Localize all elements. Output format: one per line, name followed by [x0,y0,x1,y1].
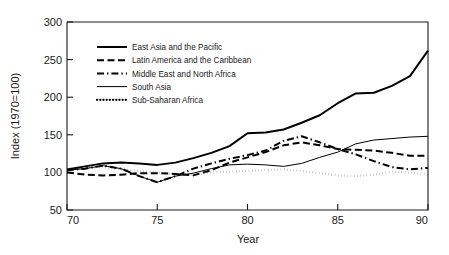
legend-label-0: East Asia and the Pacific [132,43,222,52]
y-tick-label: 50 [50,204,62,216]
x-axis-tickmarks [67,204,428,210]
y-tick-label: 300 [44,16,62,28]
x-axis-title: Year [237,233,260,245]
y-tick-label: 250 [44,54,62,66]
chart-legend: East Asia and the PacificLatin America a… [97,43,252,105]
y-axis-title: Index (1970=100) [9,73,21,160]
x-tick-label: 75 [151,214,163,226]
x-tick-label: 70 [67,214,79,226]
y-tick-label: 100 [44,166,62,178]
data-series-group [67,51,428,183]
legend-label-1: Latin America and the Caribbean [132,56,252,65]
x-tick-label: 90 [416,214,428,226]
legend-label-2: Middle East and North Africa [132,70,236,79]
legend-label-3: South Asia [132,83,172,92]
y-tick-label: 150 [44,129,62,141]
line-chart-figure: 50100150200250300 7075808590 Index (1970… [0,0,449,255]
series-line-0 [67,51,428,170]
chart-canvas: 50100150200250300 7075808590 Index (1970… [0,0,449,255]
y-axis-tick-labels: 50100150200250300 [44,16,62,216]
legend-label-4: Sub-Saharan Africa [132,96,203,105]
y-axis-tickmarks [67,22,73,210]
plot-frame [67,22,428,210]
x-tick-label: 80 [241,214,253,226]
x-axis-tick-labels: 7075808590 [67,214,428,226]
x-tick-label: 85 [332,214,344,226]
y-tick-label: 200 [44,91,62,103]
